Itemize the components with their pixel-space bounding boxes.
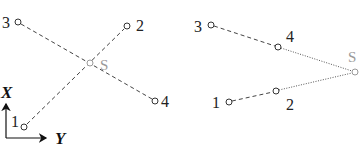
line-1-2 xyxy=(27,29,124,124)
point-4 xyxy=(275,44,281,50)
point-s xyxy=(87,60,93,66)
y-axis-label: Y xyxy=(55,129,67,148)
left-panel: 3 2 S 4 1 X Y xyxy=(0,14,169,148)
label-2: 2 xyxy=(136,17,144,34)
point-2 xyxy=(273,88,279,94)
line-3-4 xyxy=(214,26,275,46)
label-3: 3 xyxy=(194,18,202,35)
point-2 xyxy=(124,23,130,29)
label-s: S xyxy=(100,57,108,73)
label-1: 1 xyxy=(11,113,19,130)
line-1-2 xyxy=(232,92,273,101)
label-s: S xyxy=(348,49,356,65)
point-s xyxy=(352,69,358,75)
label-2: 2 xyxy=(286,96,294,113)
label-1: 1 xyxy=(212,94,220,111)
line-3-4 xyxy=(21,24,152,99)
right-panel: 3 4 S 2 1 xyxy=(194,18,358,113)
point-1 xyxy=(226,99,232,105)
point-3 xyxy=(208,22,214,28)
point-1 xyxy=(21,124,27,130)
line-2-s xyxy=(279,73,352,90)
label-4: 4 xyxy=(286,28,294,45)
diagram-canvas: 3 2 S 4 1 X Y 3 4 S 2 1 xyxy=(0,0,359,150)
label-4: 4 xyxy=(161,93,169,110)
x-axis-label: X xyxy=(0,83,13,102)
label-3: 3 xyxy=(2,14,10,31)
line-4-s xyxy=(281,48,352,71)
point-3 xyxy=(15,19,21,25)
point-4 xyxy=(152,98,158,104)
